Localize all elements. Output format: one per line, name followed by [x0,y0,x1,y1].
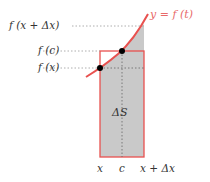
label-x: x [97,162,103,174]
point-f-x [97,65,103,71]
label-f-c: f (c) [38,44,59,56]
curve-label: y = f (t) [150,8,193,21]
label-f-x-plus-dx: f (x + Δx) [9,19,59,31]
label-f-x: f (x) [38,61,59,73]
point-f-c [119,48,125,54]
label-x-plus-dx: x + Δx [140,162,175,174]
label-c: c [119,162,125,174]
area-label: ΔS [112,106,127,119]
